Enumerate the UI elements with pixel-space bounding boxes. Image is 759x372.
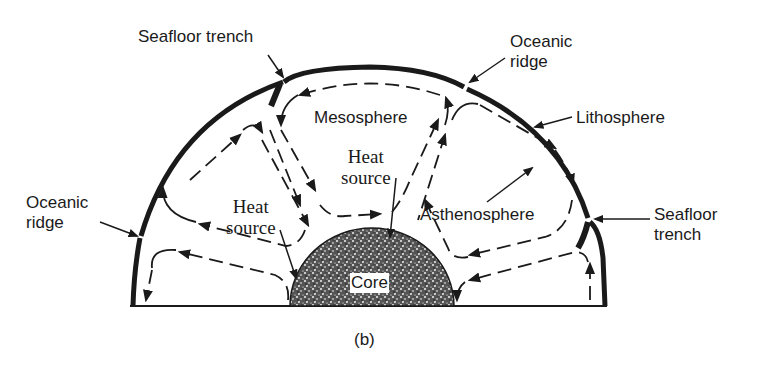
label-oceanic-ridge-top-line1: Oceanic xyxy=(510,32,572,52)
label-oceanic-ridge-left: Oceanic ridge xyxy=(26,193,88,233)
label-heat-source-center-line2: source xyxy=(341,167,391,188)
label-heat-source-left-line2: source xyxy=(226,217,276,238)
label-heat-source-left: Heat source xyxy=(226,196,276,238)
label-asthenosphere: Asthenosphere xyxy=(420,205,534,225)
label-oceanic-ridge-left-line2: ridge xyxy=(26,213,88,233)
label-heat-source-left-line1: Heat xyxy=(226,196,276,217)
label-oceanic-ridge-top-line2: ridge xyxy=(510,52,572,72)
label-seafloor-trench-right-line2: trench xyxy=(654,225,717,245)
mantle-convection-diagram: Seafloor trench Oceanic ridge Lithospher… xyxy=(0,0,759,372)
label-heat-source-center-line1: Heat xyxy=(341,146,391,167)
label-core: Core xyxy=(350,273,389,293)
figure-caption: (b) xyxy=(354,330,375,350)
label-seafloor-trench-top: Seafloor trench xyxy=(138,27,253,47)
label-mesosphere: Mesosphere xyxy=(314,108,408,128)
lithosphere-left-lower xyxy=(133,238,140,306)
lithosphere-right-lower xyxy=(590,222,605,306)
label-lithosphere: Lithosphere xyxy=(576,108,665,128)
label-seafloor-trench-right: Seafloor trench xyxy=(654,205,717,245)
label-heat-source-center: Heat source xyxy=(341,146,391,188)
label-oceanic-ridge-top: Oceanic ridge xyxy=(510,32,572,72)
label-seafloor-trench-right-line1: Seafloor xyxy=(654,205,717,225)
core-shape xyxy=(290,228,454,306)
subducting-slab-right xyxy=(578,222,588,248)
label-oceanic-ridge-left-line1: Oceanic xyxy=(26,193,88,213)
